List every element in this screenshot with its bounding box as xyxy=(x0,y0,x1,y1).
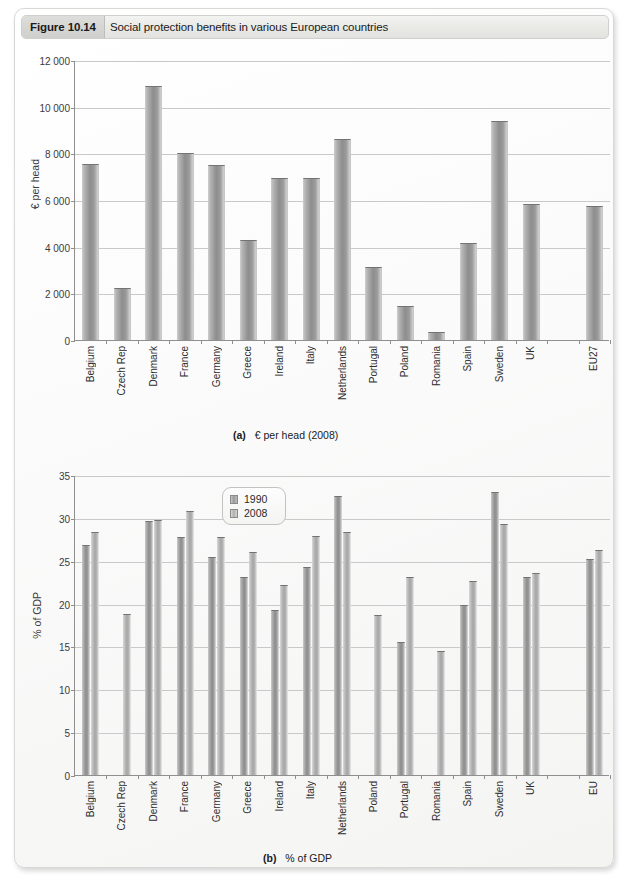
bar xyxy=(82,164,99,340)
x-axis-label: Denmark xyxy=(148,346,159,387)
x-axis-label: UK xyxy=(525,781,536,795)
chart-b-caption: (b) % of GDP xyxy=(263,852,332,864)
x-axis-label: Ireland xyxy=(274,346,285,377)
y-tick-label: 0 xyxy=(64,771,70,782)
x-axis-label: France xyxy=(179,781,190,812)
chart-a-caption-prefix: (a) xyxy=(233,429,246,441)
chart-a-euro-per-head: € per head 02 0004 0006 0008 00010 00012… xyxy=(15,39,614,439)
x-tick-mark xyxy=(232,775,233,779)
bar xyxy=(595,550,603,775)
y-tick-label: 25 xyxy=(59,556,70,567)
y-tick-mark xyxy=(71,519,75,520)
bar xyxy=(397,642,405,775)
bar xyxy=(334,139,351,340)
chart-b-y-axis-title: % of GDP xyxy=(31,592,43,639)
gridline xyxy=(75,61,610,62)
x-tick-mark xyxy=(516,775,517,779)
bar xyxy=(114,288,131,340)
x-axis-label: Germany xyxy=(211,781,222,822)
bar xyxy=(303,567,311,775)
x-axis-label: Germany xyxy=(211,346,222,387)
y-tick-mark xyxy=(71,647,75,648)
y-tick-label: 4 000 xyxy=(45,242,70,253)
bar xyxy=(428,332,445,340)
legend-item-1990: 1990 xyxy=(230,492,275,506)
x-tick-mark xyxy=(421,775,422,779)
y-tick-label: 30 xyxy=(59,513,70,524)
x-tick-mark xyxy=(295,775,296,779)
bar xyxy=(240,577,248,775)
x-tick-mark xyxy=(516,340,517,344)
y-tick-mark xyxy=(71,248,75,249)
x-tick-mark xyxy=(201,340,202,344)
x-axis-label: Netherlands xyxy=(337,781,348,835)
y-tick-label: 10 000 xyxy=(39,102,70,113)
chart-b-percent-gdp: % of GDP 05101520253035BelgiumCzech RepD… xyxy=(15,464,614,864)
x-axis-label: EU27 xyxy=(588,346,599,371)
x-tick-mark xyxy=(295,340,296,344)
bar xyxy=(303,178,320,340)
bar xyxy=(217,537,225,775)
y-tick-label: 8 000 xyxy=(45,149,70,160)
y-tick-mark xyxy=(71,61,75,62)
x-axis-label: Netherlands xyxy=(337,346,348,400)
y-tick-mark xyxy=(71,341,75,342)
figure-header: Figure 10.14 Social protection benefits … xyxy=(21,15,609,39)
y-tick-label: 35 xyxy=(59,471,70,482)
gridline xyxy=(75,476,610,477)
x-tick-mark xyxy=(484,340,485,344)
bar xyxy=(208,165,225,340)
x-axis-label: Sweden xyxy=(494,346,505,382)
figure-title: Social protection benefits in various Eu… xyxy=(110,16,388,38)
bar xyxy=(145,521,153,775)
bar xyxy=(343,532,351,775)
y-tick-label: 15 xyxy=(59,642,70,653)
bar xyxy=(249,552,257,775)
x-tick-mark xyxy=(547,775,548,779)
x-tick-mark xyxy=(264,340,265,344)
x-tick-mark xyxy=(232,340,233,344)
x-axis-label: Czech Rep xyxy=(116,781,127,830)
figure-page: Figure 10.14 Social protection benefits … xyxy=(0,0,633,890)
x-tick-mark xyxy=(358,340,359,344)
bar xyxy=(208,557,216,775)
x-tick-mark xyxy=(421,340,422,344)
x-tick-mark xyxy=(610,340,611,344)
bar xyxy=(374,615,382,775)
bar xyxy=(469,581,477,775)
bar xyxy=(523,577,531,775)
x-axis-label: Poland xyxy=(399,346,410,377)
bar xyxy=(91,532,99,775)
bar xyxy=(586,559,594,775)
x-tick-mark xyxy=(138,775,139,779)
x-tick-mark xyxy=(579,340,580,344)
chart-b-legend: 1990 2008 xyxy=(222,487,286,525)
y-tick-label: 20 xyxy=(59,599,70,610)
x-axis-label: Spain xyxy=(462,346,473,372)
x-axis-label: Italy xyxy=(305,346,316,364)
bar xyxy=(334,496,342,775)
chart-b-caption-text: % of GDP xyxy=(285,852,332,864)
bar xyxy=(532,573,540,775)
y-tick-label: 0 xyxy=(64,336,70,347)
bar xyxy=(460,605,468,775)
x-tick-mark xyxy=(358,775,359,779)
bar xyxy=(240,240,257,340)
x-axis-label: France xyxy=(179,346,190,377)
x-axis-label: Romania xyxy=(431,781,442,821)
y-tick-label: 2 000 xyxy=(45,289,70,300)
legend-item-2008: 2008 xyxy=(230,506,275,520)
figure-number: Figure 10.14 xyxy=(22,16,105,38)
x-tick-mark xyxy=(106,775,107,779)
x-tick-mark xyxy=(610,775,611,779)
x-tick-mark xyxy=(264,775,265,779)
x-tick-mark xyxy=(169,775,170,779)
y-tick-label: 12 000 xyxy=(39,56,70,67)
x-tick-mark xyxy=(327,340,328,344)
figure-card: Figure 10.14 Social protection benefits … xyxy=(14,8,614,868)
bar xyxy=(82,545,90,775)
x-axis-label: Ireland xyxy=(274,781,285,812)
x-tick-mark xyxy=(579,775,580,779)
bar xyxy=(437,651,445,775)
legend-label-1990: 1990 xyxy=(244,493,267,505)
